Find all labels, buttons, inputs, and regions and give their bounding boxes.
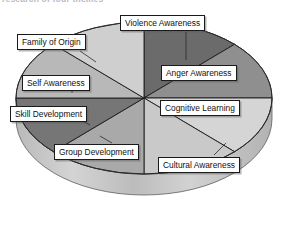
label-cognitive-learning[interactable]: Cognitive Learning xyxy=(160,100,240,116)
label-self-awareness[interactable]: Self Awareness xyxy=(22,75,90,91)
label-violence-awareness[interactable]: Violence Awareness xyxy=(120,15,205,31)
label-anger-awareness[interactable]: Anger Awareness xyxy=(161,65,237,81)
label-cultural-awareness[interactable]: Cultural Awareness xyxy=(158,157,240,173)
pie-chart-figure: research of four themes xyxy=(0,0,281,235)
label-skill-development[interactable]: Skill Development xyxy=(10,106,87,122)
label-family-of-origin[interactable]: Family of Origin xyxy=(17,34,86,50)
label-group-development[interactable]: Group Development xyxy=(54,144,139,160)
